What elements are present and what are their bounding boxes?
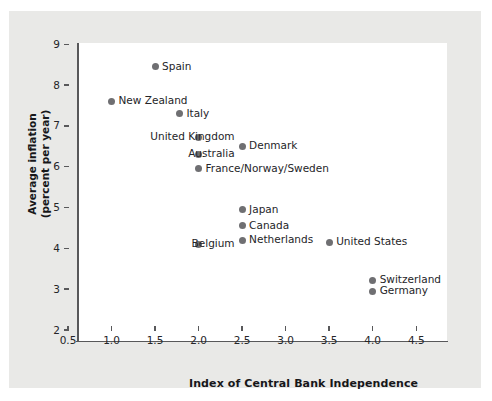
chart-panel: 23456789 0.51.01.52.02.53.03.54.04.5 Spa…	[9, 11, 481, 388]
y-tick-mark	[64, 248, 69, 249]
data-point	[369, 277, 376, 284]
data-point-label: Japan	[249, 204, 278, 215]
data-point-label: Australia	[188, 148, 234, 159]
x-tick-mark	[154, 326, 155, 331]
x-tick-mark	[285, 326, 286, 331]
data-point-label: Canada	[249, 220, 289, 231]
y-tick-mark	[64, 125, 69, 126]
data-point-label: France/Norway/Sweden	[206, 163, 329, 174]
data-point-label: Germany	[380, 285, 428, 296]
data-point-label: New Zealand	[119, 95, 188, 106]
x-tick-label: 2.5	[227, 334, 257, 346]
data-point-label: Denmark	[249, 140, 297, 151]
plot-area	[77, 43, 447, 341]
x-tick-mark	[111, 326, 112, 331]
x-tick-label: 4.5	[401, 334, 431, 346]
y-tick-mark	[64, 207, 69, 208]
data-point-label: United Kingdom	[150, 131, 234, 142]
y-tick-label: 9	[42, 38, 60, 50]
data-point	[239, 222, 246, 229]
x-tick-label: 4.0	[358, 334, 388, 346]
data-point	[239, 206, 246, 213]
y-tick-mark	[64, 84, 69, 85]
x-tick-mark	[328, 326, 329, 331]
data-point-label: United States	[336, 236, 407, 247]
y-axis-title: Average inflation (percent per year)	[26, 74, 52, 254]
x-tick-mark	[372, 326, 373, 331]
x-tick-mark	[67, 326, 68, 331]
data-point	[152, 63, 159, 70]
x-tick-label: 3.0	[271, 334, 301, 346]
data-point	[108, 98, 115, 105]
data-point	[239, 237, 246, 244]
data-point	[176, 110, 183, 117]
chart-figure: 23456789 0.51.01.52.02.53.03.54.04.5 Spa…	[0, 0, 492, 401]
x-tick-mark	[416, 326, 417, 331]
x-tick-label: 1.0	[97, 334, 127, 346]
x-tick-label: 3.5	[314, 334, 344, 346]
y-tick-mark	[64, 166, 69, 167]
y-tick-label: 3	[42, 283, 60, 295]
data-point	[369, 288, 376, 295]
data-point-label: Italy	[186, 108, 209, 119]
data-point-label: Netherlands	[249, 234, 313, 245]
x-tick-mark	[198, 326, 199, 331]
x-tick-label: 0.5	[53, 334, 83, 346]
x-axis-title: Index of Central Bank Independence	[189, 377, 418, 390]
x-tick-label: 1.5	[140, 334, 170, 346]
data-point-label: Spain	[162, 61, 191, 72]
x-axis-line	[76, 341, 448, 343]
data-point	[326, 239, 333, 246]
y-tick-mark	[64, 288, 69, 289]
data-point	[239, 143, 246, 150]
y-axis-line	[77, 43, 79, 342]
data-point-label: Belgium	[192, 238, 235, 249]
x-tick-label: 2.0	[184, 334, 214, 346]
x-tick-mark	[241, 326, 242, 331]
y-tick-mark	[64, 44, 69, 45]
